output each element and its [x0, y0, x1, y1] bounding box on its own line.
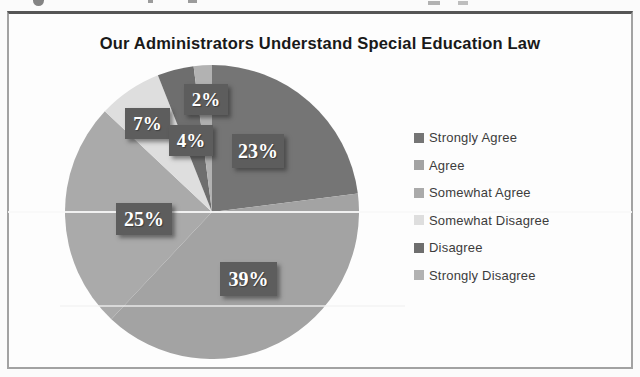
- legend-row: Strongly Agree: [414, 124, 549, 152]
- legend-label: Somewhat Agree: [429, 185, 531, 200]
- cropped-caption-fragment: [33, 0, 44, 6]
- legend-swatch-somewhat-agree: [414, 188, 424, 198]
- legend-swatch-strongly-disagree: [414, 270, 424, 280]
- cropped-caption-fragment: [148, 0, 153, 3]
- legend: Strongly Agree Agree Somewhat Agree Some…: [414, 124, 549, 289]
- legend-label: Strongly Disagree: [429, 268, 536, 283]
- data-label-somewhat-agree: 25%: [116, 203, 172, 235]
- legend-row: Disagree: [414, 234, 549, 262]
- legend-row: Agree: [414, 152, 549, 180]
- scanned-chart-page: { "chart_data": { "type": "pie", "title"…: [0, 0, 640, 377]
- legend-label: Disagree: [429, 240, 483, 255]
- data-label-disagree: 4%: [169, 125, 213, 156]
- legend-label: Somewhat Disagree: [429, 213, 549, 228]
- legend-swatch-agree: [414, 160, 424, 170]
- legend-row: Somewhat Disagree: [414, 207, 549, 235]
- legend-row: Somewhat Agree: [414, 179, 549, 207]
- cropped-caption-fragment: [458, 1, 468, 5]
- cropped-caption-fragment: [428, 1, 440, 5]
- scan-artifact-line: [60, 305, 405, 307]
- data-label-strongly-disagree: 2%: [184, 84, 228, 115]
- chart-title: Our Administrators Understand Special Ed…: [7, 34, 633, 53]
- legend-swatch-somewhat-disagree: [414, 215, 424, 225]
- legend-swatch-disagree: [414, 243, 424, 253]
- cropped-caption-fragment: [188, 0, 197, 3]
- data-label-strongly-agree: 23%: [232, 134, 284, 168]
- legend-row: Strongly Disagree: [414, 262, 549, 290]
- data-label-somewhat-disagree: 7%: [125, 108, 170, 139]
- data-label-agree: 39%: [220, 262, 277, 296]
- legend-label: Strongly Agree: [429, 130, 517, 145]
- legend-label: Agree: [429, 158, 465, 173]
- legend-swatch-strongly-agree: [414, 133, 424, 143]
